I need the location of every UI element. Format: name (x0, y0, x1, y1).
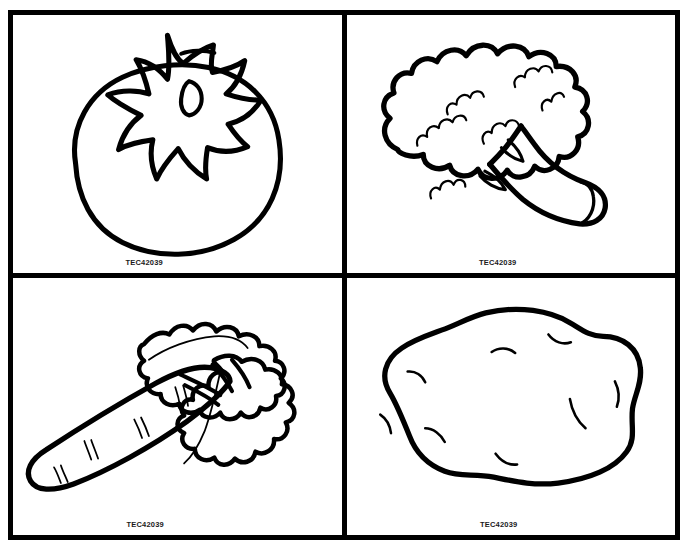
panel-label-carrot: TEC42039 (13, 520, 310, 529)
panel-potato[interactable]: TEC42039 (347, 278, 676, 536)
panel-tomato[interactable]: TEC42039 (13, 15, 342, 273)
panel-broccoli[interactable]: TEC42039 (347, 15, 676, 273)
panel-label-tomato: TEC42039 (13, 258, 309, 267)
panel-label-broccoli: TEC42039 (347, 258, 663, 267)
broccoli-illustration (347, 15, 676, 273)
top-cropped-header-remnant (10, 0, 470, 6)
panel-grid: TEC42039 (8, 10, 680, 540)
carrot-illustration (13, 278, 342, 536)
potato-illustration (347, 278, 676, 536)
tomato-illustration (13, 15, 342, 273)
coloring-sheet: TEC42039 (0, 0, 694, 547)
panel-carrot[interactable]: TEC42039 (13, 278, 342, 536)
panel-label-potato: TEC42039 (347, 520, 664, 529)
